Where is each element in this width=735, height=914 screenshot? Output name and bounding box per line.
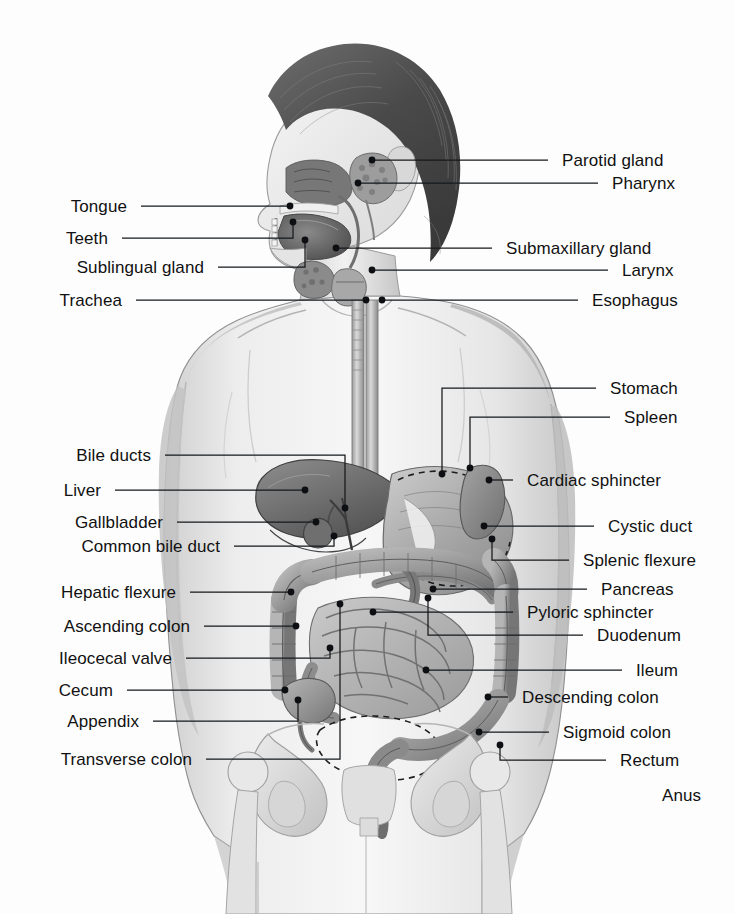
organ-label-pancreas[interactable]: Pancreas: [601, 580, 674, 599]
organ-label-ascending-colon[interactable]: Ascending colon: [0, 617, 190, 636]
digestive-system-diagram: TongueTeethSublingual glandTracheaBile d…: [0, 0, 735, 914]
organ-label-sublingual-gland[interactable]: Sublingual gland: [0, 258, 204, 277]
organ-label-ileum[interactable]: Ileum: [636, 661, 678, 680]
organ-label-esophagus[interactable]: Esophagus: [592, 291, 678, 310]
organ-label-anus[interactable]: Anus: [662, 786, 701, 805]
organ-label-rectum[interactable]: Rectum: [620, 751, 679, 770]
organ-label-hepatic-flexure[interactable]: Hepatic flexure: [0, 583, 176, 602]
organ-label-parotid-gland[interactable]: Parotid gland: [562, 151, 663, 170]
organ-label-bile-ducts[interactable]: Bile ducts: [0, 446, 151, 465]
organ-label-liver[interactable]: Liver: [0, 481, 101, 500]
organ-label-duodenum[interactable]: Duodenum: [597, 626, 681, 645]
organ-label-pyloric-sphincter[interactable]: Pyloric sphincter: [527, 603, 653, 622]
organ-label-cardiac-sphincter[interactable]: Cardiac sphincter: [527, 471, 661, 490]
organ-label-splenic-flexure[interactable]: Splenic flexure: [583, 551, 696, 570]
organ-label-larynx[interactable]: Larynx: [622, 261, 674, 280]
organ-label-cystic-duct[interactable]: Cystic duct: [608, 517, 692, 536]
organ-label-appendix[interactable]: Appendix: [0, 712, 139, 731]
organ-label-stomach[interactable]: Stomach: [610, 379, 678, 398]
organ-label-ileocecal-valve[interactable]: Ileocecal valve: [0, 649, 172, 668]
organ-label-gallbladder[interactable]: Gallbladder: [0, 513, 163, 532]
organ-label-trachea[interactable]: Trachea: [0, 291, 122, 310]
organ-label-teeth[interactable]: Teeth: [0, 229, 108, 248]
organ-label-cecum[interactable]: Cecum: [0, 681, 113, 700]
organ-label-sigmoid-colon[interactable]: Sigmoid colon: [563, 723, 671, 742]
organ-label-tongue[interactable]: Tongue: [0, 197, 127, 216]
organ-label-transverse-colon[interactable]: Transverse colon: [0, 750, 192, 769]
organ-label-submaxillary-gland[interactable]: Submaxillary gland: [506, 239, 651, 258]
organ-label-common-bile-duct[interactable]: Common bile duct: [0, 537, 220, 556]
organ-label-descending-colon[interactable]: Descending colon: [522, 688, 659, 707]
organ-label-pharynx[interactable]: Pharynx: [612, 174, 675, 193]
organ-label-spleen[interactable]: Spleen: [624, 408, 678, 427]
